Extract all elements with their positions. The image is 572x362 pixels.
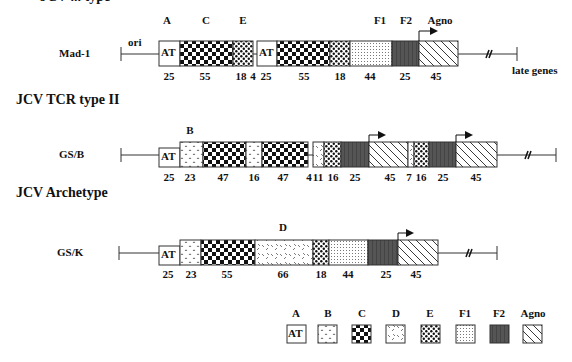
segment-length: 44 (355, 70, 385, 82)
segment-length: 25 (428, 171, 458, 183)
segment-length: 47 (208, 171, 238, 183)
at-label-gsb: AT (161, 150, 175, 162)
segment-length: 55 (190, 70, 220, 82)
segment-length: 45 (421, 70, 451, 82)
top-label: B (170, 124, 210, 136)
legend-label-e: E (410, 307, 450, 319)
segment-length: 44 (333, 268, 363, 280)
segment-length: 25 (154, 70, 184, 82)
gsb-construct (121, 131, 556, 167)
at-label-mad1-2: AT (259, 46, 273, 58)
segment-length: 25 (340, 171, 370, 183)
top-label: C (186, 14, 226, 26)
at-label-gsk: AT (161, 248, 175, 260)
segment-length: 23 (175, 171, 205, 183)
legend-at-text: AT (288, 327, 302, 339)
segment-length: 16 (239, 171, 269, 183)
at-label-mad1-1: AT (161, 46, 175, 58)
top-label: A (147, 14, 187, 26)
top-label: D (263, 221, 303, 233)
segment-length: 18 (306, 268, 336, 280)
mad1-construct (121, 27, 517, 66)
segment-length: 18 (325, 70, 355, 82)
segment-length: 25 (251, 70, 281, 82)
legend-label-agno: Agno (513, 307, 553, 319)
gsk-construct (119, 229, 497, 265)
legend-swatches (287, 325, 542, 343)
segment-length: 66 (268, 268, 298, 280)
top-label: Agno (420, 14, 460, 26)
segment-length: 23 (176, 268, 206, 280)
segment-length: 45 (401, 268, 431, 280)
segment-length: 55 (212, 268, 242, 280)
top-label: E (223, 14, 263, 26)
segment-length: 25 (390, 70, 420, 82)
segment-length: 55 (289, 70, 319, 82)
segment-length: 45 (461, 171, 491, 183)
segment-length: 25 (371, 268, 401, 280)
